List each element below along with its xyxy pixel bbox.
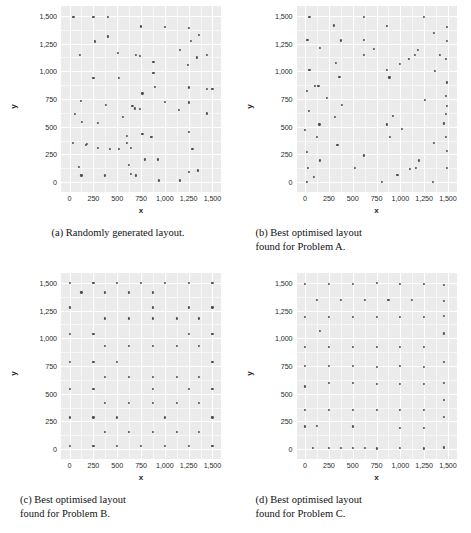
y-axis-tick-label: 500 [45,389,57,398]
y-axis-tick-label: 1,000 [40,67,58,76]
data-point [314,85,316,87]
y-axis-ticks-d: 02505007501,0001,2501,500 [259,273,295,459]
x-axis-ticks-c: 02505007501,0001,2501,500 [61,461,221,473]
y-axis-ticks-c: 02505007501,0001,2501,500 [23,273,59,459]
y-axis-tick-label: 250 [45,417,57,426]
y-axis-tick-label: 0 [289,178,293,187]
y-axis-tick-label: 1,000 [275,67,293,76]
data-point [443,332,445,334]
data-point [198,431,200,433]
data-point [388,76,390,78]
data-point [414,54,416,56]
y-axis-tick-label: 750 [281,95,293,104]
gridline-major-vertical [141,6,142,192]
data-point [105,103,107,105]
panel-b: y 02505007501,0001,2501,500 02505007501,… [236,0,471,267]
y-axis-tick-label: 1,000 [40,334,58,343]
data-point [443,284,445,286]
data-point [445,57,447,59]
data-point [333,24,335,26]
data-point [401,128,403,130]
data-point [129,173,131,175]
y-axis-tick-label: 500 [45,122,57,131]
data-point [308,15,310,17]
x-axis-label-c: x [61,473,221,482]
y-axis-tick-label: 750 [281,362,293,371]
gridline-major-vertical [377,6,378,192]
data-point [418,159,420,161]
data-point [97,122,99,124]
plot-area-c [61,273,221,459]
data-point [189,40,191,42]
data-point [443,122,445,124]
y-axis-ticks-b: 02505007501,0001,2501,500 [259,6,295,192]
y-axis-label-a: y [9,104,18,108]
gridline-major-vertical [329,6,330,192]
gridline-major-vertical [305,6,306,192]
gridline-major-vertical [448,273,449,459]
y-axis-tick-label: 1,500 [40,278,58,287]
data-point [445,136,447,138]
plot-area-d [297,273,457,459]
x-axis-tick-label: 1,500 [204,194,222,203]
x-axis-ticks-b: 02505007501,0001,2501,500 [297,194,457,206]
gridline-major-vertical [93,6,94,192]
data-point [206,54,208,56]
caption-d-line-2: found for Problem C. [256,507,452,521]
x-axis-tick-label: 1,250 [180,461,198,470]
data-point [433,142,435,144]
data-point [424,99,426,101]
data-point [131,105,133,107]
y-axis-tick-label: 500 [281,122,293,131]
caption-c-line-1: (c) Best optimised layout [20,494,126,505]
data-point [341,104,343,106]
data-point [443,360,445,362]
gridline-major-vertical [165,273,166,459]
y-axis-tick-label: 750 [45,95,57,104]
x-axis-label-a: x [61,206,221,215]
data-point [433,32,435,34]
data-point [443,416,445,418]
data-point [107,16,109,18]
x-axis-tick-label: 750 [371,461,383,470]
data-point [197,169,199,171]
data-point [74,113,76,115]
x-axis-tick-label: 1,250 [415,461,433,470]
data-point [118,77,120,79]
x-axis-tick-label: 750 [135,194,147,203]
data-point [198,345,200,347]
x-axis-tick-label: 0 [68,461,72,470]
data-point [319,329,321,331]
x-axis-tick-label: 1,000 [156,461,174,470]
gridline-major-vertical [70,273,71,459]
data-point [152,61,154,63]
data-point [206,112,208,114]
data-point [94,40,96,42]
data-point [179,49,181,51]
data-point [408,57,410,59]
data-point [445,95,447,97]
data-point [135,174,137,176]
data-point [445,113,447,115]
data-point [392,115,394,117]
data-point [409,168,411,170]
data-point [373,48,375,50]
y-axis-tick-label: 0 [289,445,293,454]
caption-d: (d) Best optimised layout found for Prob… [256,493,452,520]
panel-c: y 02505007501,0001,2501,500 02505007501,… [0,267,236,533]
caption-a-line-1: (a) Randomly generated layout. [52,227,185,238]
data-point [178,109,180,111]
panel-a: y 02505007501,0001,2501,500 02505007501,… [0,0,236,267]
x-axis-tick-label: 0 [68,194,72,203]
caption-b: (b) Best optimised layout found for Prob… [256,226,452,253]
data-point [305,150,307,152]
y-axis-label-d: y [244,371,253,375]
caption-b-line-2: found for Problem A. [256,240,452,254]
data-point [191,148,193,150]
y-axis-tick-label: 1,500 [275,278,293,287]
data-point [198,317,200,319]
x-axis-tick-label: 1,000 [156,194,174,203]
x-axis-tick-label: 0 [303,194,307,203]
data-point [198,34,200,36]
data-point [198,402,200,404]
